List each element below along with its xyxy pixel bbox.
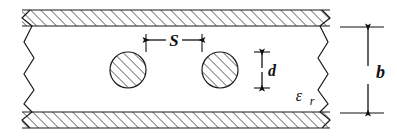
height-dimension: b	[340, 27, 385, 113]
top-plate-hatching	[10, 0, 350, 40]
spacing-label: S	[169, 31, 178, 50]
bottom-plate-hatching	[10, 100, 350, 136]
post-left-hatching	[105, 47, 151, 93]
top-conducting-plate	[10, 0, 350, 40]
circular-post-right	[197, 47, 243, 93]
permittivity-subscript: r	[310, 94, 315, 108]
bottom-conducting-plate	[10, 100, 350, 136]
permittivity-symbol: ε	[296, 87, 303, 104]
circular-post-left	[105, 47, 151, 93]
left-break-line	[22, 10, 34, 128]
diameter-dimension: d	[254, 52, 277, 88]
diameter-label: d	[268, 62, 277, 79]
right-break-line	[318, 10, 330, 128]
height-label: b	[376, 62, 385, 82]
post-right-hatching	[197, 47, 243, 93]
permittivity-annotation: ε r	[296, 87, 315, 108]
diagram-canvas: S d b ε r	[0, 0, 397, 136]
spacing-dimension: S	[146, 31, 202, 52]
waveguide-cross-section-figure: S d b ε r	[0, 0, 397, 136]
